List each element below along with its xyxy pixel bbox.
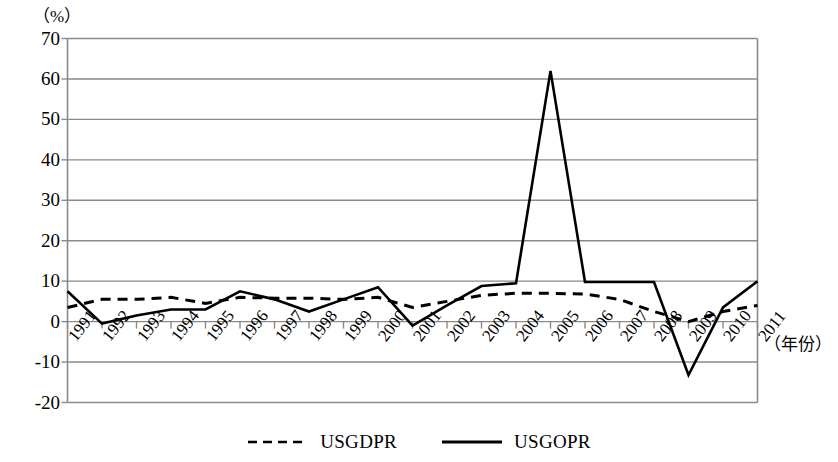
plot-area [0, 0, 838, 462]
y-axis-tick-label: -20 [16, 393, 60, 412]
legend-item-usgopr: USGOPR [441, 432, 591, 451]
chart-legend: USGDPR USGOPR [0, 432, 838, 451]
legend-label-usgdpr: USGDPR [320, 432, 397, 451]
y-axis-tick-label: 60 [16, 69, 60, 88]
legend-label-usgopr: USGOPR [514, 432, 591, 451]
legend-item-usgdpr: USGDPR [247, 432, 397, 451]
y-axis-tick-label: 70 [16, 29, 60, 48]
y-axis-tick-label: 40 [16, 150, 60, 169]
y-axis-tick-label: 20 [16, 231, 60, 250]
y-axis-tick-label: 0 [16, 312, 60, 331]
line-chart: （%） （年份） 706050403020100-10-20 199119921… [0, 0, 838, 462]
legend-swatch-dashed-icon [247, 436, 309, 448]
y-axis-tick-label: -10 [16, 352, 60, 371]
y-axis-tick-label: 10 [16, 271, 60, 290]
series-line-usgdpr [68, 293, 758, 321]
gridlines [68, 39, 758, 403]
y-axis-ticks [62, 39, 68, 403]
y-axis-tick-label: 30 [16, 190, 60, 209]
axis-frame [68, 39, 758, 403]
y-axis-tick-label: 50 [16, 109, 60, 128]
legend-swatch-solid-icon [441, 436, 503, 448]
